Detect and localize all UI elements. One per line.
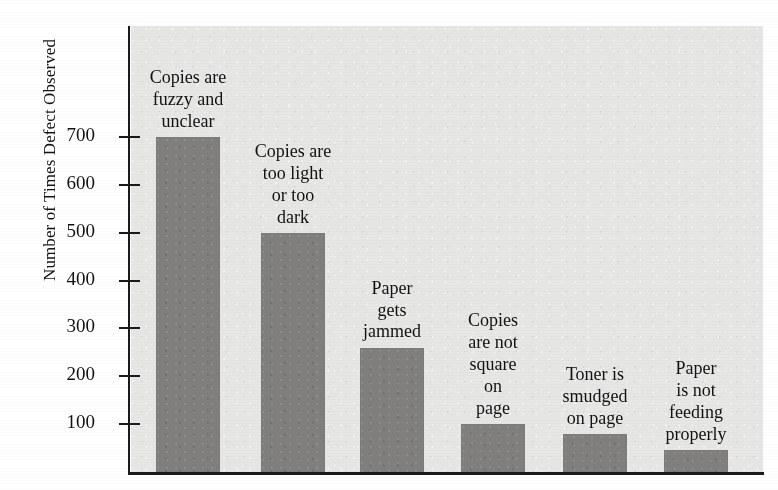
bar	[156, 137, 220, 472]
y-tick-label: 300	[33, 315, 95, 337]
bar-category-label: Copies are fuzzy and unclear	[136, 67, 240, 133]
y-tick-label: 700	[33, 124, 95, 146]
y-tick-mark	[119, 327, 140, 329]
y-tick-label: 400	[33, 268, 95, 290]
y-tick-label: 100	[33, 411, 95, 433]
bar-category-label: Paper is not feeding properly	[644, 358, 748, 446]
bar	[664, 450, 728, 472]
bar-category-label: Toner is smudged on page	[543, 364, 647, 430]
bar-category-label: Copies are not square on page	[441, 310, 545, 420]
bar-category-label: Paper gets jammed	[340, 278, 444, 344]
bar	[261, 233, 325, 472]
bar	[360, 348, 424, 472]
y-tick-mark	[119, 280, 140, 282]
y-tick-mark	[119, 184, 140, 186]
y-tick-mark	[119, 423, 140, 425]
y-tick-label: 500	[33, 220, 95, 242]
y-tick-label: 600	[33, 172, 95, 194]
bar	[563, 434, 627, 472]
pareto-chart-figure: Number of Times Defect Observed 10020030…	[0, 0, 778, 490]
y-tick-mark	[119, 375, 140, 377]
y-tick-label: 200	[33, 363, 95, 385]
y-axis-line	[128, 26, 130, 474]
x-axis-line	[128, 472, 764, 475]
y-tick-mark	[119, 136, 140, 138]
bar-category-label: Copies are too light or too dark	[241, 141, 345, 229]
bar	[461, 424, 525, 472]
y-tick-mark	[119, 232, 140, 234]
